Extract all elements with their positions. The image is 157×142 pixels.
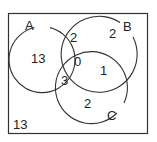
set-label-b: B <box>123 19 132 34</box>
region-a-b-c: 0 <box>74 54 81 69</box>
venn-diagram: A B C 13 2 2 2 1 3 0 13 <box>0 0 157 142</box>
region-a-c: 3 <box>61 73 68 88</box>
region-c-only: 2 <box>84 96 91 111</box>
region-outside: 13 <box>13 117 27 132</box>
region-b-only: 2 <box>109 26 116 41</box>
region-a-only: 13 <box>31 51 45 66</box>
set-label-c: C <box>107 108 116 123</box>
set-label-a: A <box>25 18 34 33</box>
region-b-c: 1 <box>100 63 107 78</box>
region-a-b: 2 <box>70 30 77 45</box>
